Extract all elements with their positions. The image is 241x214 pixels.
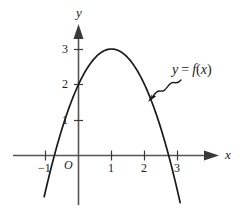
curve-label-pointer	[148, 80, 181, 102]
y-tick-label-3: 3	[62, 43, 68, 55]
function-graph-figure: y x O −1 1 2 3 1 2 3 y=f(x)	[0, 0, 241, 214]
curve-label-equals: =	[178, 62, 192, 77]
plot-canvas	[0, 0, 241, 214]
x-tick-label-1: 1	[108, 162, 114, 174]
y-tick-label-1: 1	[62, 114, 68, 126]
x-axis	[13, 151, 219, 161]
y-axis-label: y	[76, 6, 82, 19]
curve-label: y=f(x)	[172, 63, 212, 77]
origin-label: O	[64, 159, 73, 171]
x-tick-label-3: 3	[174, 162, 180, 174]
y-tick-label-2: 2	[62, 78, 68, 90]
x-tick-label-2: 2	[141, 162, 147, 174]
x-axis-arrowhead	[204, 151, 219, 161]
x-axis-label: x	[225, 148, 231, 161]
pointer-squiggle	[151, 80, 181, 99]
curve-label-paren-close: )	[207, 62, 212, 77]
y-axis	[74, 24, 84, 205]
y-axis-arrowhead	[74, 24, 84, 39]
x-tick-label--1: −1	[38, 162, 51, 174]
